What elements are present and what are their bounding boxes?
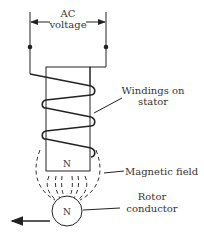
windings-leader <box>94 98 122 113</box>
field-leader <box>104 171 124 173</box>
rotor-label-line1: Rotor <box>138 191 167 202</box>
stator-windings <box>30 74 95 157</box>
magnetic-field-label: Magnetic field <box>125 166 199 177</box>
rotor-label-line2: conductor <box>126 203 178 214</box>
stator-core <box>46 67 90 171</box>
terminal-left <box>28 45 33 50</box>
rotor-pole-label: N <box>63 207 71 217</box>
voltage-label: voltage <box>48 19 86 30</box>
ac-label: AC <box>60 8 76 19</box>
terminal-right <box>104 45 109 50</box>
windings-label-line1: Windings on <box>122 85 186 96</box>
windings-label-line2: stator <box>138 96 168 107</box>
stator-pole-label: N <box>63 159 71 169</box>
lead-right <box>90 67 106 85</box>
induction-diagram: AC voltage N Magnetic field Windings on … <box>0 0 204 236</box>
rotor-leader <box>83 208 120 210</box>
